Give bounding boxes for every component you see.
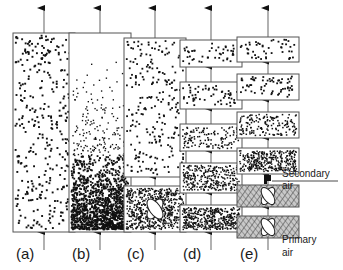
- panel-a: [13, 8, 75, 250]
- panel-c: [124, 8, 186, 250]
- panel-label-b: (b): [72, 245, 90, 262]
- vessel-section-e-1: [237, 74, 299, 100]
- annotation-label-line2-secondary-air: air: [282, 180, 294, 191]
- annotation-label-line2-primary-air: air: [282, 247, 294, 258]
- panel-label-e: (e): [240, 245, 258, 262]
- panel-label-a: (a): [16, 245, 34, 262]
- panel-b: [69, 8, 131, 250]
- annotation-label-line1-secondary-air: Secondary: [282, 168, 330, 179]
- panel-label-c: (c): [127, 245, 145, 262]
- fluidized-bed-configurations-figure: SecondaryairPrimaryair (a)(b)(c)(d)(e): [0, 0, 343, 270]
- vessel-section-c-0: [124, 38, 186, 177]
- diagram-canvas: SecondaryairPrimaryair (a)(b)(c)(d)(e): [0, 0, 343, 270]
- panel-label-d: (d): [183, 245, 201, 262]
- panel-d: [180, 8, 242, 250]
- annotation-label-line1-primary-air: Primary: [282, 234, 316, 245]
